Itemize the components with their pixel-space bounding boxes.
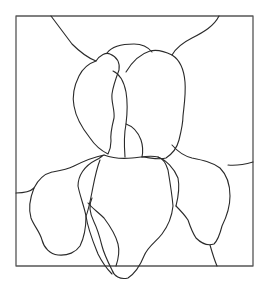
upper-petal-left bbox=[73, 53, 119, 154]
iris-pattern-canvas: Iris stained glass pattern bbox=[0, 0, 266, 290]
lower-petal-right bbox=[172, 145, 230, 245]
lead-top-left bbox=[51, 16, 96, 61]
upper-petal-top-cap bbox=[107, 44, 152, 53]
iris-line-drawing bbox=[0, 0, 266, 290]
frame-border bbox=[16, 16, 253, 266]
lower-petal-inner-right bbox=[158, 157, 179, 206]
upper-petal-center-left bbox=[113, 71, 127, 157]
lead-left-mid bbox=[16, 188, 34, 193]
lower-petal-inner-left bbox=[86, 160, 112, 274]
upper-petal-center-small bbox=[126, 124, 143, 157]
lead-right-mid bbox=[228, 162, 253, 165]
lower-petal-inner-center bbox=[88, 203, 119, 266]
upper-petal-right bbox=[126, 50, 185, 159]
lead-top-right bbox=[172, 16, 219, 55]
lead-bottom-right bbox=[210, 245, 217, 266]
